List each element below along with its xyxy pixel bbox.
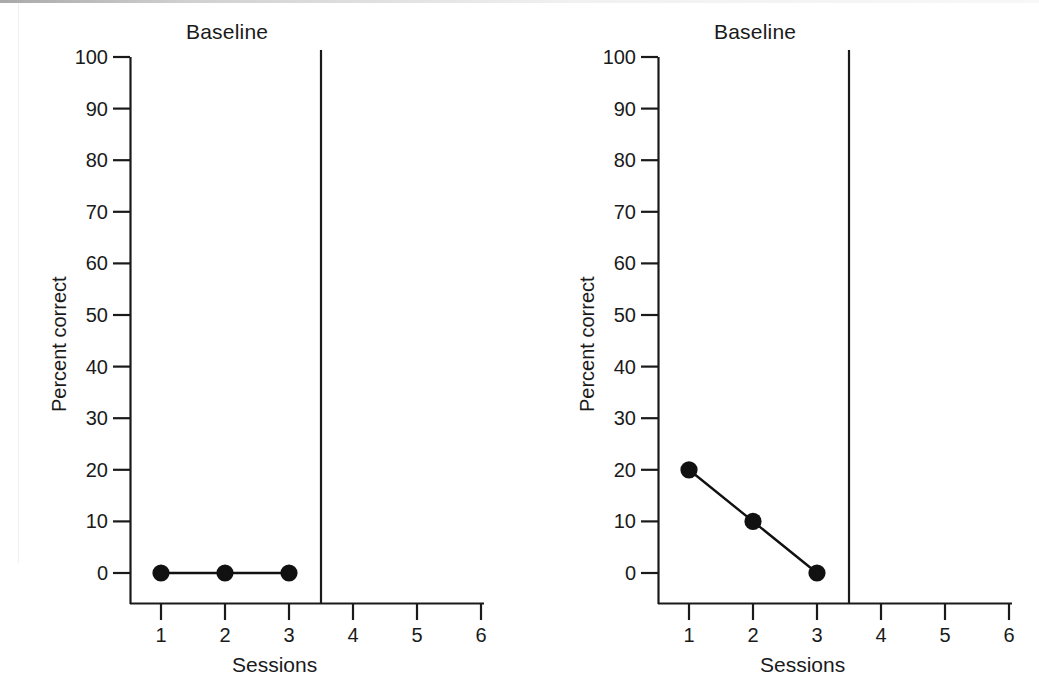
- y-tick-label: 60: [62, 252, 108, 275]
- x-tick-marks: [689, 604, 1009, 620]
- y-axis-label: Percent correct: [576, 276, 599, 412]
- x-tick-label: 4: [347, 624, 358, 647]
- y-tick-label: 20: [590, 459, 636, 482]
- axes-right: [641, 50, 1012, 620]
- x-tick-label: 3: [811, 624, 822, 647]
- x-tick-label: 1: [155, 624, 166, 647]
- data-point-marker: [216, 564, 233, 581]
- x-tick-label: 2: [747, 624, 758, 647]
- y-tick-label: 10: [590, 510, 636, 533]
- y-tick-label: 100: [590, 46, 636, 69]
- x-tick-label: 2: [219, 624, 230, 647]
- y-tick-label: 90: [590, 98, 636, 121]
- x-tick-label: 5: [411, 624, 422, 647]
- y-tick-label: 90: [62, 98, 108, 121]
- y-tick-label: 70: [62, 201, 108, 224]
- y-tick-label: 10: [62, 510, 108, 533]
- chart-title: Baseline: [714, 20, 796, 44]
- y-tick-label: 80: [590, 149, 636, 172]
- y-tick-label: 30: [62, 407, 108, 430]
- y-tick-label: 60: [590, 252, 636, 275]
- y-tick-label: 40: [590, 356, 636, 379]
- y-tick-label: 0: [590, 562, 636, 585]
- data-point-marker: [680, 461, 697, 478]
- x-tick-marks: [161, 604, 481, 620]
- x-tick-label: 5: [939, 624, 950, 647]
- y-axis-label: Percent correct: [48, 276, 71, 412]
- chart-panel-right: Baseline Percent correct Sessions 100 90…: [520, 0, 1039, 700]
- data-point-marker: [280, 564, 297, 581]
- y-tick-label: 0: [62, 562, 108, 585]
- x-tick-label: 6: [475, 624, 486, 647]
- data-point-marker: [744, 513, 761, 530]
- y-tick-label: 80: [62, 149, 108, 172]
- x-tick-label: 1: [683, 624, 694, 647]
- y-tick-label: 50: [590, 304, 636, 327]
- data-series-left: [152, 564, 297, 581]
- chart-title: Baseline: [186, 20, 268, 44]
- y-tick-label: 100: [62, 46, 108, 69]
- x-axis-label: Sessions: [760, 653, 845, 677]
- y-tick-label: 40: [62, 356, 108, 379]
- y-tick-label: 70: [590, 201, 636, 224]
- y-tick-marks: [641, 57, 658, 573]
- axes-left: [113, 50, 484, 620]
- data-series-right: [680, 461, 825, 581]
- chart-panel-left: Baseline Percent correct Sessions 100 90…: [0, 0, 519, 700]
- x-tick-label: 6: [1003, 624, 1014, 647]
- figure-canvas: Baseline Percent correct Sessions 100 90…: [0, 0, 1039, 700]
- y-tick-label: 20: [62, 459, 108, 482]
- data-point-marker: [152, 564, 169, 581]
- y-tick-label: 30: [590, 407, 636, 430]
- x-axis-label: Sessions: [232, 653, 317, 677]
- data-point-marker: [808, 564, 825, 581]
- x-tick-label: 4: [875, 624, 886, 647]
- y-tick-marks: [113, 57, 130, 573]
- y-tick-label: 50: [62, 304, 108, 327]
- x-tick-label: 3: [283, 624, 294, 647]
